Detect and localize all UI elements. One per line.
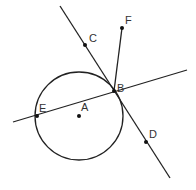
label-F: F <box>125 14 132 26</box>
label-A: A <box>81 101 89 113</box>
point-C <box>83 43 87 47</box>
geometry-diagram: ABCDEF <box>0 0 196 190</box>
point-F <box>120 26 124 30</box>
label-C: C <box>89 32 97 44</box>
label-D: D <box>149 128 157 140</box>
label-B: B <box>117 82 124 94</box>
point-A <box>77 114 81 118</box>
point-B <box>112 89 116 93</box>
point-D <box>144 140 148 144</box>
point-E <box>35 114 39 118</box>
diagram-svg: ABCDEF <box>0 0 196 190</box>
label-E: E <box>39 102 46 114</box>
